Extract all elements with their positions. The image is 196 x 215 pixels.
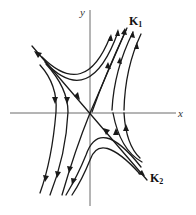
arrow-icon: [71, 178, 77, 185]
arrow-icon: [115, 29, 120, 36]
y-axis-label: y: [79, 6, 85, 18]
arrow-icon: [108, 34, 113, 41]
trajectories-lower: [66, 113, 142, 195]
phase-portrait-diagram: x y: [0, 0, 196, 215]
arrow-icon: [64, 97, 70, 104]
trajectory: [40, 65, 56, 193]
arrow-icon: [67, 166, 73, 173]
x-axis-label: x: [177, 107, 183, 119]
eigenvector-labels: K1 K2: [129, 14, 163, 186]
arrow-icon: [130, 31, 135, 38]
arrow-icon: [103, 128, 110, 135]
arrow-icon: [52, 97, 58, 104]
k2-label: K2: [150, 171, 163, 186]
trajectory: [112, 32, 133, 110]
arrow-icon: [123, 124, 129, 131]
k1-label: K1: [129, 14, 142, 29]
